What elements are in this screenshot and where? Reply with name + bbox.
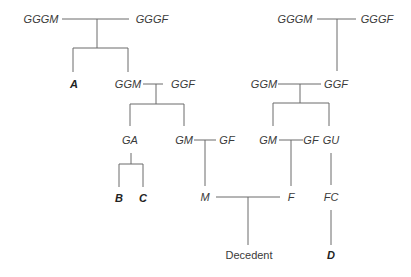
right-gggf-label: GGGF bbox=[361, 13, 393, 25]
left-gm-label: GM bbox=[175, 134, 193, 146]
right-gggm-label: GGGM bbox=[278, 13, 313, 25]
c-label: C bbox=[139, 192, 147, 204]
fc-label: FC bbox=[324, 191, 339, 203]
right-ggm-label: GGM bbox=[251, 78, 277, 90]
gu-label: GU bbox=[323, 134, 340, 146]
d-label: D bbox=[327, 249, 335, 261]
left-ggm-label: GGM bbox=[115, 78, 141, 90]
right-gf-label: GF bbox=[303, 134, 318, 146]
left-ggf-label: GGF bbox=[171, 78, 195, 90]
m-label: M bbox=[200, 191, 209, 203]
ga-label: GA bbox=[122, 134, 138, 146]
decedent-label: Decedent bbox=[225, 249, 272, 261]
b-label: B bbox=[115, 192, 123, 204]
left-gggm-label: GGGM bbox=[24, 13, 59, 25]
right-ggf-label: GGF bbox=[324, 78, 348, 90]
tree-connectors bbox=[0, 0, 411, 277]
right-gm-label: GM bbox=[259, 134, 277, 146]
a-label: A bbox=[70, 78, 78, 90]
left-gf-label: GF bbox=[219, 134, 234, 146]
f-label: F bbox=[288, 191, 295, 203]
left-gggf-label: GGGF bbox=[136, 13, 168, 25]
